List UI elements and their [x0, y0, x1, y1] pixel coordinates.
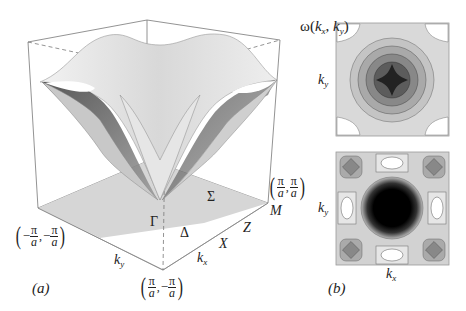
separator: , — [326, 18, 334, 34]
omega-axis-label: ω(kx, ky) — [300, 18, 349, 36]
x-point-label: X — [219, 236, 228, 252]
contour-plot-top — [336, 23, 449, 136]
kx-sub: x — [203, 257, 207, 267]
gamma-point-label: Γ — [150, 214, 158, 230]
ky-k: k — [333, 18, 340, 34]
denominator: a — [277, 188, 285, 199]
omega-symbol: ω — [300, 18, 310, 34]
corner-front-coord: ( πa , − πa ) — [139, 274, 185, 300]
denominator: a — [168, 288, 176, 299]
panel-a-3d-plot — [0, 0, 466, 311]
figure: ω(kx, ky) Γ Δ Σ X Z M ky kx ( − πa , − π… — [0, 0, 466, 311]
denominator: a — [30, 237, 38, 248]
ky-sub: y — [324, 79, 328, 89]
z-point-label: Z — [243, 220, 251, 236]
ky-sub: y — [324, 207, 328, 217]
denominator: a — [50, 237, 58, 248]
denominator: a — [148, 288, 156, 299]
bottom-plot-ky-label: ky — [318, 200, 328, 217]
delta-label: Δ — [180, 225, 189, 241]
corner-left-coord: ( − πa , − πa ) — [14, 223, 67, 249]
sigma-label: Σ — [207, 189, 215, 205]
corner-right-coord: ( πa , πa ) — [268, 174, 306, 200]
sign: − — [161, 279, 168, 295]
paren-close: ) — [344, 18, 349, 34]
kx-sub: x — [392, 273, 396, 283]
contour-plot-bottom — [336, 152, 449, 265]
top-plot-ky-label: ky — [318, 72, 328, 89]
denominator: a — [290, 188, 298, 199]
m-point-label: M — [270, 203, 282, 219]
bottom-plot-kx-label: kx — [386, 266, 396, 283]
sign: − — [23, 228, 30, 244]
ky-sub: y — [120, 259, 124, 269]
dispersion-surface — [40, 34, 277, 200]
panel-a-label: (a) — [32, 280, 50, 297]
panel-b-label: (b) — [328, 280, 346, 297]
kx-k: k — [315, 18, 322, 34]
ky-axis-label: ky — [114, 252, 124, 269]
kx-axis-label: kx — [197, 250, 207, 267]
sign: − — [43, 228, 50, 244]
